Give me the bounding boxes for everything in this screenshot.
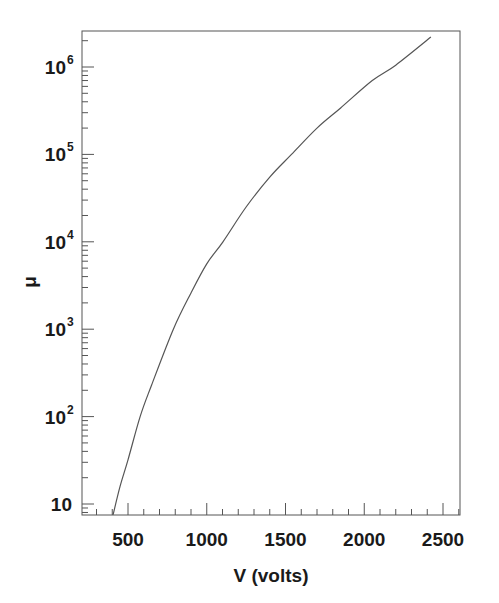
data-line xyxy=(113,37,431,515)
y-axis-tick-labels: 10102103104105106 xyxy=(45,53,74,515)
y-tick-label: 10 xyxy=(45,57,66,78)
x-tick-label: 2500 xyxy=(422,529,464,550)
x-axis-ticks xyxy=(97,503,459,515)
x-tick-label: 1500 xyxy=(264,529,306,550)
x-tick-label: 500 xyxy=(112,529,144,550)
x-axis-tick-labels: 5001000150020002500 xyxy=(112,529,464,550)
y-tick-exponent: 4 xyxy=(67,228,74,242)
plot-frame xyxy=(82,31,460,515)
y-tick-label: 10 xyxy=(45,144,66,165)
x-tick-label: 1000 xyxy=(186,529,228,550)
y-tick-exponent: 6 xyxy=(67,53,74,67)
y-tick-label: 10 xyxy=(45,407,66,428)
y-tick-exponent: 2 xyxy=(67,403,74,417)
chart: 5001000150020002500 10102103104105106 V … xyxy=(0,0,499,603)
y-tick-label: 10 xyxy=(45,232,66,253)
x-axis-title: V (volts) xyxy=(234,565,309,586)
x-tick-label: 2000 xyxy=(343,529,385,550)
y-tick-label: 10 xyxy=(51,494,72,515)
y-axis-title: μ xyxy=(19,276,40,288)
y-tick-exponent: 5 xyxy=(67,140,74,154)
y-tick-label: 10 xyxy=(45,319,66,340)
y-tick-exponent: 3 xyxy=(67,315,74,329)
y-axis-ticks xyxy=(82,41,94,513)
